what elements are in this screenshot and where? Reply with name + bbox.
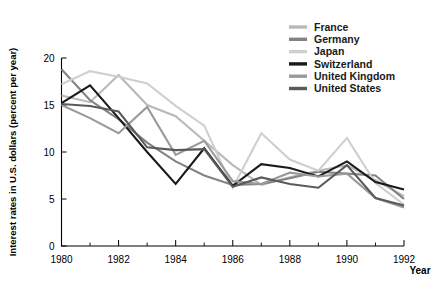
x-tick-label-1990: 1990 [336,254,359,265]
y-tick-label-20: 20 [43,53,55,64]
x-tick-label-1980: 1980 [50,254,73,265]
legend-label-united-kingdom: United Kingdom [314,70,395,82]
legend-label-france: France [314,21,349,33]
x-axis-title: Year [409,265,430,276]
series-line-united-states [62,104,405,206]
y-tick-label-15: 15 [43,100,55,111]
x-tick-label-1984: 1984 [165,254,188,265]
x-tick-label-1986: 1986 [222,254,245,265]
legend-label-switzerland: Switzerland [314,58,372,70]
x-tick-label-1982: 1982 [107,254,130,265]
x-axis-ticks: 1980198219841986198819901992 [50,240,415,265]
interest-rates-line-chart: 05101520 1980198219841986198819901992 Fr… [0,0,438,287]
legend-label-united-states: United States [314,82,381,94]
series-line-united-kingdom [62,105,405,207]
y-tick-label-10: 10 [43,147,55,158]
x-tick-label-1992: 1992 [393,254,416,265]
legend-label-germany: Germany [314,33,360,45]
legend-label-japan: Japan [314,45,344,57]
y-axis-title: Interest rates in U.S. dollars (percent … [7,48,18,257]
x-tick-label-1988: 1988 [279,254,302,265]
chart-legend: FranceGermanyJapanSwitzerlandUnited King… [289,21,395,95]
y-axis-ticks: 05101520 [43,53,66,252]
chart-svg: 05101520 1980198219841986198819901992 Fr… [0,0,438,287]
y-tick-label-0: 0 [49,241,55,252]
y-tick-label-5: 5 [49,194,55,205]
